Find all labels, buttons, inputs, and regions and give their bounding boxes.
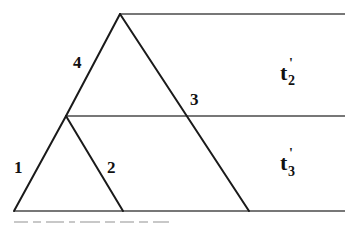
branch-3 (120, 14, 249, 211)
interval-label-t3: t ' 3 (280, 146, 295, 179)
interval-label-t2: t ' 2 (280, 56, 295, 88)
tree-diagram: 4 1 2 3 t ' 2 t ' 3 (0, 0, 356, 226)
branch-label-1: 1 (14, 158, 23, 177)
interval-t2-base: t (280, 60, 288, 85)
branch-label-3: 3 (190, 90, 199, 109)
interval-t2-prime: ' (289, 56, 293, 71)
interval-t3-base: t (280, 150, 288, 175)
branch-label-2: 2 (107, 158, 116, 177)
interval-t2-subscript: 2 (288, 73, 295, 88)
interval-t3-subscript: 3 (288, 164, 295, 179)
caption-cut-off (14, 221, 184, 226)
branch-label-4: 4 (73, 53, 82, 72)
interval-t3-prime: ' (289, 146, 293, 161)
